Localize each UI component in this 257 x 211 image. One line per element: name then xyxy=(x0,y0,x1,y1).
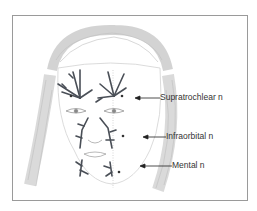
label-supratrochlear-nerve: Supratrochlear n xyxy=(160,92,223,102)
label-mental-nerve: Mental n xyxy=(172,160,205,170)
face-illustration xyxy=(0,0,257,211)
label-infraorbital-nerve: Infraorbital n xyxy=(166,131,213,141)
